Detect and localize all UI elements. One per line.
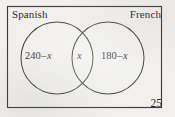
spanish-set-label: Spanish: [12, 8, 48, 20]
french-only-count: 180: [101, 50, 117, 61]
french-only-expression: 180–x: [101, 50, 128, 61]
venn-diagram-figure: Spanish French 240–x x 180–x 25: [0, 0, 175, 117]
spanish-only-count: 240: [25, 50, 41, 61]
variable-x: x: [47, 50, 52, 61]
variable-x: x: [123, 50, 128, 61]
intersection-expression: x: [77, 50, 82, 61]
french-set-label: French: [130, 8, 161, 20]
neither-set-count: 25: [151, 97, 163, 109]
spanish-only-expression: 240–x: [25, 50, 52, 61]
